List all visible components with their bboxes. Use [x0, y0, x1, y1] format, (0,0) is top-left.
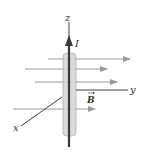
y-axis-label: y	[129, 84, 136, 95]
current-label: I	[74, 38, 80, 49]
z-axis-label: z	[64, 12, 71, 23]
field-label: B	[86, 95, 95, 105]
magnetic-field-diagram: z I y x B	[0, 0, 149, 155]
x-axis-label: x	[13, 122, 19, 133]
current-arrow-icon	[65, 35, 73, 46]
x-axis-line	[21, 97, 62, 126]
